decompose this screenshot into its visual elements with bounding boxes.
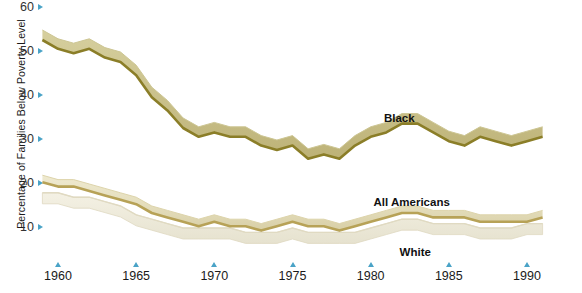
series-label-black: Black	[384, 112, 415, 124]
x-axis-tick-1965: 1965	[106, 262, 166, 283]
black-band-area	[42, 30, 542, 159]
poverty-level-area-chart: Percentage of Families Below Poverty Lev…	[0, 0, 582, 293]
triangle-up-icon	[524, 262, 530, 267]
series-label-white: White	[400, 246, 431, 258]
triangle-up-icon	[368, 262, 374, 267]
series-label-all-americans: All Americans	[374, 196, 450, 208]
x-axis-tick-label: 1980	[341, 270, 401, 283]
x-axis-tick-1975: 1975	[263, 262, 323, 283]
triangle-up-icon	[446, 262, 452, 267]
black-band-top-edge	[42, 30, 542, 149]
x-axis-tick-1980: 1980	[341, 262, 401, 283]
triangle-up-icon	[133, 262, 139, 267]
x-axis-tick-1985: 1985	[419, 262, 479, 283]
triangle-up-icon	[211, 262, 217, 267]
x-axis-tick-label: 1975	[263, 270, 323, 283]
x-axis-tick-label: 1970	[184, 270, 244, 283]
x-axis-tick-label: 1960	[28, 270, 88, 283]
triangle-up-icon	[290, 262, 296, 267]
triangle-up-icon	[55, 262, 61, 267]
x-axis-tick-label: 1990	[497, 270, 557, 283]
x-axis-tick-1990: 1990	[497, 262, 557, 283]
x-axis-tick-1970: 1970	[184, 262, 244, 283]
x-axis-tick-1960: 1960	[28, 262, 88, 283]
chart-plot-area	[0, 0, 582, 293]
x-axis-tick-label: 1965	[106, 270, 166, 283]
x-axis-tick-label: 1985	[419, 270, 479, 283]
